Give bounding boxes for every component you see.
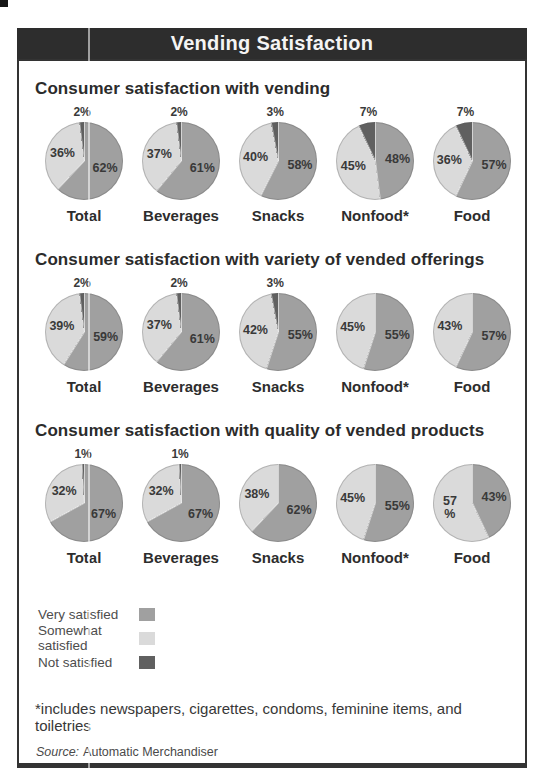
very-satisfied-label-snacks: 55% xyxy=(288,329,313,342)
legend-swatch-not xyxy=(139,656,155,669)
slice-divider xyxy=(57,161,84,190)
pie-chart-food: 57%43% xyxy=(433,293,511,371)
not-satisfied-label-food xyxy=(427,276,517,290)
slice-divider xyxy=(375,464,376,503)
very-satisfied-label-total: 67% xyxy=(91,508,116,521)
pie-cell-nonfood: 55%45%Nonfood* xyxy=(330,447,420,566)
slice-divider xyxy=(260,161,278,196)
pie-chart-snacks: 62%38% xyxy=(239,464,317,542)
source-prefix: Source: xyxy=(36,745,79,759)
very-satisfied-label-food: 57% xyxy=(482,330,507,343)
pie-chart-food: 43%57 % xyxy=(433,464,511,542)
pie-cell-beverages: 1%67%32%Beverages xyxy=(136,447,226,566)
legend-label-somewhat: Somewhat satisfied xyxy=(38,623,139,653)
category-label-nonfood: Nonfood* xyxy=(330,378,420,395)
pie-chart-total: 67%32% xyxy=(45,464,123,542)
category-label-food: Food xyxy=(427,207,517,224)
pie-cell-beverages: 2%61%37%Beverages xyxy=(136,276,226,395)
very-satisfied-label-beverages: 61% xyxy=(190,333,215,346)
very-satisfied-label-nonfood: 48% xyxy=(385,153,410,166)
somewhat-satisfied-label-food: 43% xyxy=(437,321,462,334)
footnote: *includes newspapers, cigarettes, condom… xyxy=(35,700,509,734)
somewhat-satisfied-label-total: 39% xyxy=(49,321,74,334)
pie-cell-beverages: 2%61%37%Beverages xyxy=(136,105,226,224)
not-satisfied-label-snacks: 3% xyxy=(230,105,320,119)
pie-cell-food: 43%57 %Food xyxy=(427,447,517,566)
very-satisfied-label-snacks: 58% xyxy=(287,160,312,173)
slice-divider xyxy=(50,503,85,523)
legend-item-not: Not satisfied xyxy=(38,650,525,674)
slice-divider xyxy=(63,332,85,365)
not-satisfied-label-snacks: 3% xyxy=(230,276,320,290)
title-bar: Vending Satisfaction xyxy=(17,28,527,59)
pie-chart-beverages: 67%32% xyxy=(142,464,220,542)
somewhat-satisfied-label-food: 36% xyxy=(437,154,462,167)
pie-chart-nonfood: 55%45% xyxy=(336,464,414,542)
slice-divider xyxy=(455,332,473,368)
category-label-food: Food xyxy=(427,378,517,395)
legend: Very satisfied Somewhat satisfied Not sa… xyxy=(38,602,525,674)
slice-divider xyxy=(251,503,278,532)
not-satisfied-label-food xyxy=(427,447,517,461)
somewhat-satisfied-label-snacks: 40% xyxy=(243,151,268,164)
somewhat-satisfied-label-total: 36% xyxy=(50,147,75,160)
pie-chart-total: 62%36% xyxy=(45,122,123,200)
category-label-total: Total xyxy=(39,207,129,224)
not-satisfied-label-beverages: 2% xyxy=(134,105,224,119)
category-label-nonfood: Nonfood* xyxy=(330,549,420,566)
not-satisfied-label-total: 2% xyxy=(37,105,127,119)
pie-chart-beverages: 61%37% xyxy=(142,293,220,371)
very-satisfied-label-snacks: 62% xyxy=(287,505,312,518)
slice-divider xyxy=(362,503,375,540)
very-satisfied-label-food: 57% xyxy=(482,159,507,172)
not-satisfied-label-beverages: 2% xyxy=(134,276,224,290)
slice-divider xyxy=(362,332,375,369)
pie-chart-food: 57%36% xyxy=(433,122,511,200)
very-satisfied-label-beverages: 67% xyxy=(188,508,213,521)
pie-chart-snacks: 55%42% xyxy=(239,293,317,371)
slice-divider xyxy=(472,293,473,332)
page-corner-mark xyxy=(0,0,8,7)
slice-divider xyxy=(375,293,376,332)
slice-divider xyxy=(472,503,490,539)
pie-chart-total: 59%39% xyxy=(45,293,123,371)
slice-divider xyxy=(375,122,376,161)
pie-cell-nonfood: 55%45%Nonfood* xyxy=(330,276,420,395)
category-label-nonfood: Nonfood* xyxy=(330,207,420,224)
pie-chart-snacks: 58%40% xyxy=(239,122,317,200)
pie-cell-nonfood: 7%48%45%Nonfood* xyxy=(330,105,420,224)
category-label-total: Total xyxy=(39,549,129,566)
pie-cell-snacks: 62%38%Snacks xyxy=(233,447,323,566)
very-satisfied-label-nonfood: 55% xyxy=(385,500,410,513)
somewhat-satisfied-label-nonfood: 45% xyxy=(341,161,366,174)
section-heading-quality: Consumer satisfaction with quality of ve… xyxy=(35,421,525,441)
somewhat-satisfied-label-snacks: 42% xyxy=(243,324,268,337)
legend-swatch-very xyxy=(139,608,155,621)
section-heading-vending: Consumer satisfaction with vending xyxy=(35,79,525,99)
slice-divider xyxy=(156,161,182,192)
pie-row-quality: 1%67%32%Total1%67%32%Beverages62%38%Snac… xyxy=(19,441,525,566)
somewhat-satisfied-label-beverages: 37% xyxy=(147,319,172,332)
page-title: Vending Satisfaction xyxy=(171,32,374,55)
pie-cell-food: 57%43%Food xyxy=(427,276,517,395)
very-satisfied-label-food: 43% xyxy=(482,492,507,505)
slice-divider xyxy=(472,464,473,503)
pie-row-vending: 2%62%36%Total2%61%37%Beverages3%58%40%Sn… xyxy=(19,99,525,224)
not-satisfied-label-nonfood: 7% xyxy=(324,105,414,119)
section-heading-variety: Consumer satisfaction with variety of ve… xyxy=(35,250,525,270)
pie-chart-beverages: 61%37% xyxy=(142,122,220,200)
somewhat-satisfied-label-beverages: 37% xyxy=(147,148,172,161)
category-label-beverages: Beverages xyxy=(136,207,226,224)
not-satisfied-label-nonfood xyxy=(330,447,420,461)
pie-cell-food: 7%57%36%Food xyxy=(427,105,517,224)
slice-divider xyxy=(278,464,279,503)
category-label-beverages: Beverages xyxy=(136,549,226,566)
slice-divider xyxy=(375,161,381,200)
not-satisfied-label-total: 1% xyxy=(38,447,128,461)
not-satisfied-label-total: 2% xyxy=(37,276,127,290)
somewhat-satisfied-label-nonfood: 45% xyxy=(340,322,365,335)
category-label-snacks: Snacks xyxy=(233,549,323,566)
source-line: Source:Automatic Merchandiser xyxy=(36,745,525,759)
very-satisfied-label-beverages: 61% xyxy=(190,162,215,175)
pie-chart-nonfood: 48%45% xyxy=(336,122,414,200)
